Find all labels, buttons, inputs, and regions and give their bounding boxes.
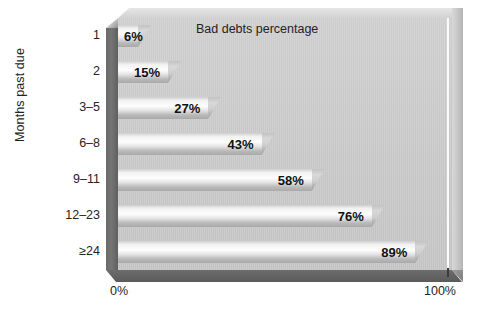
bar-row[interactable]: 89% <box>118 241 452 263</box>
bar-end-bevel <box>168 61 181 83</box>
bar-value-label-5: 58% <box>278 173 304 188</box>
x-axis-tick-label-100: 100% <box>424 284 456 298</box>
bad-debts-percentage-chart: Months past due 123–56–89–1112–23≥24 Bad… <box>0 0 490 317</box>
bar-7[interactable] <box>118 241 415 263</box>
plot-top-bevel <box>118 8 463 18</box>
bar-series: 6%15%27%43%58%76%89% <box>118 18 452 270</box>
bar-row[interactable]: 15% <box>118 61 452 83</box>
plot-left-wall <box>106 28 118 270</box>
bar-value-label-4: 43% <box>228 137 254 152</box>
y-axis-tick-label-2: 2 <box>22 65 100 78</box>
bar-end-bevel <box>312 169 325 191</box>
y-axis-tick-label-6: 12–23 <box>22 209 100 222</box>
y-axis-tick-label-7: ≥24 <box>22 245 100 258</box>
plot-right-wall <box>452 8 463 270</box>
bar-value-label-7: 89% <box>381 245 407 260</box>
y-axis-tick-labels: 123–56–89–1112–23≥24 <box>22 18 100 270</box>
bar-end-bevel <box>415 241 428 263</box>
bar-end-bevel <box>262 133 275 155</box>
bar-end-bevel <box>208 97 221 119</box>
bar-end-bevel <box>372 205 385 227</box>
y-axis-tick-label-4: 6–8 <box>22 137 100 150</box>
bar-value-label-2: 15% <box>134 65 160 80</box>
bar-row[interactable]: 27% <box>118 97 452 119</box>
bar-value-label-1: 6% <box>124 29 143 44</box>
x-axis-tick-label-0: 0% <box>110 284 128 298</box>
plot-left-wall-bevel <box>106 18 118 28</box>
bar-row[interactable]: 6% <box>118 25 452 47</box>
y-axis-tick-label-5: 9–11 <box>22 173 100 186</box>
bar-value-label-6: 76% <box>338 209 364 224</box>
y-axis-tick-label-1: 1 <box>22 29 100 42</box>
y-axis-tick-label-3: 3–5 <box>22 101 100 114</box>
bar-value-label-3: 27% <box>174 101 200 116</box>
bar-row[interactable]: 58% <box>118 169 452 191</box>
bar-row[interactable]: 76% <box>118 205 452 227</box>
bar-6[interactable] <box>118 205 372 227</box>
bar-row[interactable]: 43% <box>118 133 452 155</box>
plot-floor <box>106 270 462 282</box>
